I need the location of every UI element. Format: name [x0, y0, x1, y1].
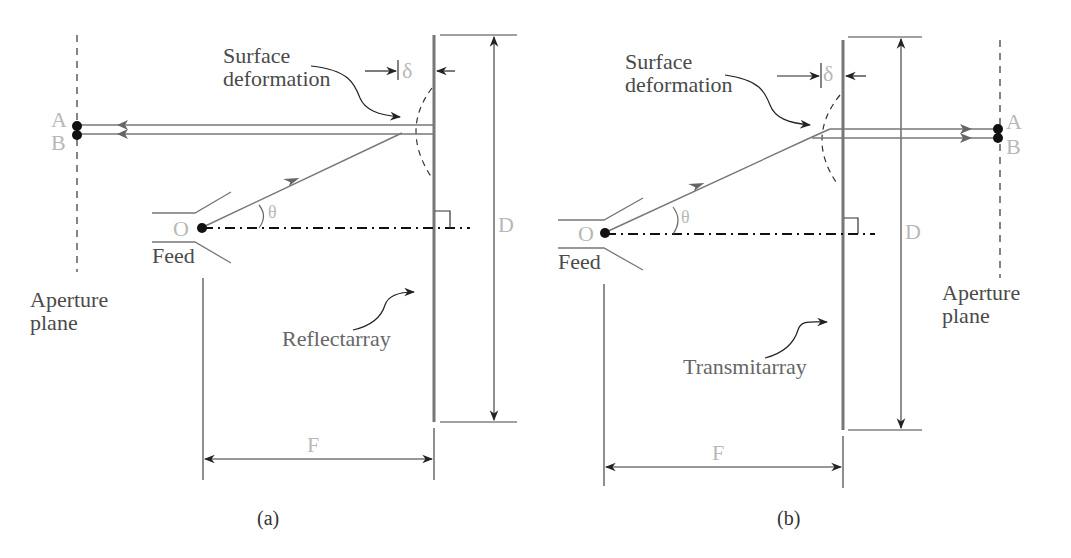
feed-horn-upper — [152, 192, 231, 213]
surface-deformation-curve — [822, 95, 840, 185]
incident-ray-kink — [812, 129, 830, 137]
panel-a-caption: (a) — [257, 508, 279, 529]
panel-b-caption: (b) — [777, 508, 800, 529]
diagram-canvas — [0, 0, 1071, 558]
point-a-label: A — [1006, 110, 1022, 133]
point-b-label: B — [51, 131, 66, 154]
origin-label: O — [578, 222, 594, 245]
theta-arc — [673, 207, 678, 234]
delta-label: δ — [402, 59, 412, 82]
diameter-label: D — [498, 213, 514, 236]
origin-label: O — [173, 217, 189, 240]
theta-arc — [259, 205, 264, 228]
focal-length-label: F — [712, 441, 724, 464]
aperture-plane-label: Aperture plane — [942, 281, 1020, 327]
point-a-label: A — [51, 108, 67, 131]
surface-deformation-label: Surface deformation — [223, 44, 331, 90]
incident-ray — [604, 137, 812, 233]
surface-deformation-label: Surface deformation — [625, 50, 733, 96]
transmitarray-callout-arrow — [765, 322, 827, 358]
theta-label: θ — [681, 208, 690, 227]
point-a — [72, 121, 82, 131]
point-b — [72, 130, 82, 140]
right-angle-marker — [844, 218, 858, 234]
deformation-callout-arrow — [725, 75, 810, 125]
reflectarray-callout-arrow — [353, 292, 414, 330]
focal-length-label: F — [307, 433, 319, 456]
incident-ray — [201, 133, 402, 228]
feed-label: Feed — [558, 250, 601, 273]
reflectarray-label: Reflectarray — [282, 327, 391, 350]
antenna-diagram-figure: Surface deformation δ A B θ O D Feed Ape… — [0, 0, 1071, 558]
feed-label: Feed — [152, 244, 195, 267]
right-angle-marker — [435, 211, 450, 228]
transmitarray-label: Transmitarray — [683, 355, 807, 378]
point-a — [993, 124, 1003, 134]
point-b-label: B — [1006, 135, 1021, 158]
feed-origin-point — [197, 223, 207, 233]
theta-label: θ — [268, 203, 277, 222]
feed-horn-upper — [558, 198, 643, 220]
feed-origin-point — [600, 228, 610, 238]
diameter-label: D — [905, 220, 921, 243]
panel-a-reflectarray — [72, 35, 517, 480]
aperture-plane-label: Aperture plane — [30, 288, 108, 334]
surface-deformation-curve — [416, 88, 432, 178]
panel-b-transmitarray — [558, 37, 1003, 488]
delta-label: δ — [823, 62, 833, 85]
point-b — [993, 133, 1003, 143]
